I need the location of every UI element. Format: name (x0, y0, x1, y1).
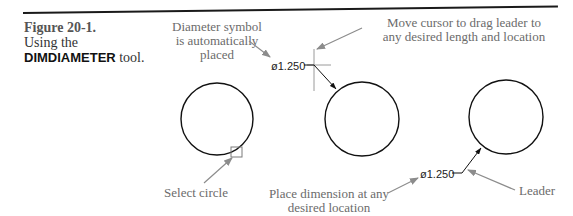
callout-arrow-diameter (249, 41, 270, 57)
circle-2 (325, 82, 399, 156)
callout-arrow-leader (468, 170, 515, 190)
dimension-leader-second (452, 148, 481, 173)
circle-3 (469, 80, 543, 154)
callout-arrow-select-circle (204, 158, 232, 183)
callout-arrow-place-dimension (388, 178, 418, 193)
circle-1 (181, 83, 253, 155)
drawing-canvas (0, 0, 573, 216)
dimension-leader-first (304, 65, 336, 89)
callout-arrow-move-cursor (317, 28, 362, 49)
